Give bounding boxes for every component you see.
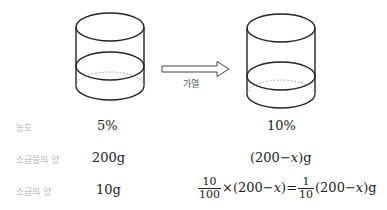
heating-arrow-icon (162, 62, 229, 77)
right-water-surface (247, 62, 315, 90)
left-cylinder (76, 13, 144, 100)
right-cylinder (247, 14, 315, 108)
label-salt-amount: 소금의 양 (16, 185, 51, 198)
before-salt-amount: 10g (96, 182, 121, 197)
arrow-label: 가열 (183, 77, 199, 90)
after-salt-equation: 10100×(200−x)=110(200−x)g (197, 176, 377, 201)
expr-part: )g (363, 180, 376, 195)
denominator: 10 (298, 189, 314, 201)
fraction-10-over-100: 10100 (198, 176, 221, 201)
fraction-1-over-10: 110 (298, 176, 314, 201)
label-solution-amount: 소금물의 양 (16, 153, 59, 166)
minus-sign: − (263, 180, 274, 195)
expr-part: (200 (250, 150, 280, 165)
minus-sign: − (345, 180, 356, 195)
before-concentration: 5% (97, 118, 118, 133)
times-sign: × (222, 180, 233, 195)
expr-part: (200 (315, 180, 345, 195)
after-solution-amount: (200−x)g (250, 150, 312, 165)
expr-part: )g (298, 150, 311, 165)
minus-sign: − (280, 150, 291, 165)
before-solution-amount: 200g (92, 150, 125, 165)
after-concentration: 10% (267, 118, 296, 133)
expr-part: (200 (233, 180, 263, 195)
label-concentration: 농도 (16, 121, 32, 134)
variable-x: x (274, 180, 281, 195)
denominator: 100 (198, 189, 221, 201)
equals-sign: = (286, 180, 297, 195)
